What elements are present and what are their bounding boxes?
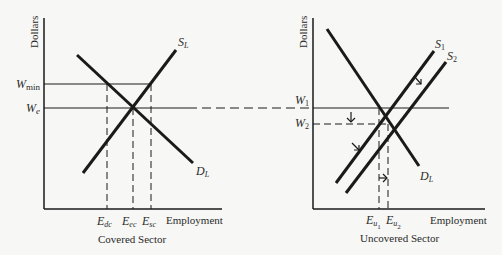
employment-right-arrow bbox=[379, 174, 387, 182]
eu1-label: Eu1 bbox=[365, 213, 381, 231]
covered-sector-caption: Covered Sector bbox=[98, 233, 166, 245]
demand-curve-uncovered bbox=[327, 29, 419, 166]
esc-label: Esc bbox=[141, 214, 156, 229]
demand-label-covered: DL bbox=[195, 164, 210, 179]
eu2-label: Eu2 bbox=[385, 213, 401, 231]
w1-label: W1 bbox=[295, 93, 309, 108]
right-y-axis-label: Dollars bbox=[297, 16, 309, 48]
supply2-label: S2 bbox=[447, 49, 457, 64]
w2-label: W2 bbox=[295, 116, 309, 131]
uncovered-sector-panel: Dollars W1 W2 S1 S2 DL Eu1 Eu2 Employmen… bbox=[295, 16, 487, 244]
demand-label-uncovered: DL bbox=[419, 169, 434, 184]
uncovered-sector-caption: Uncovered Sector bbox=[360, 232, 439, 244]
covered-sector-panel: Dollars Wmin We SL DL Edc Eec Esc Employ… bbox=[16, 16, 313, 245]
left-x-axis-label: Employment bbox=[166, 214, 223, 226]
supply-shift-arrow-lower bbox=[352, 143, 359, 150]
left-y-axis-label: Dollars bbox=[28, 16, 40, 48]
right-x-axis-label: Employment bbox=[430, 214, 487, 226]
supply-curve-covered bbox=[83, 50, 176, 173]
edc-label: Edc bbox=[96, 214, 112, 229]
supply-shift-arrow-upper bbox=[414, 76, 421, 84]
wage-down-arrow bbox=[347, 112, 355, 122]
minimum-wage-two-sector-diagram: Dollars Wmin We SL DL Edc Eec Esc Employ… bbox=[0, 0, 502, 255]
demand-curve-covered bbox=[77, 55, 193, 163]
supply1-label: S1 bbox=[435, 37, 445, 52]
supply-label-covered: SL bbox=[178, 35, 189, 50]
we-label: We bbox=[26, 101, 40, 116]
wmin-label: Wmin bbox=[16, 77, 41, 92]
eec-label: Eec bbox=[121, 214, 137, 229]
